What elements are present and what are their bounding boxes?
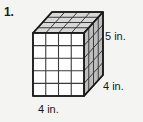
- worksheet-problem-figure: 1.: [0, 0, 143, 122]
- prism-drawing: [0, 0, 143, 122]
- dimension-label-depth: 4 in.: [103, 81, 124, 92]
- prism-front-face: [33, 33, 84, 96]
- dimension-label-width: 4 in.: [38, 104, 59, 115]
- rectangular-prism-figure: [0, 0, 143, 122]
- dimension-label-height: 5 in.: [105, 31, 126, 42]
